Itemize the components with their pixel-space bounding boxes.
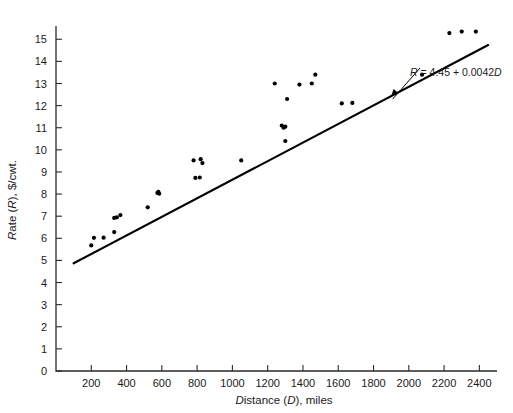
data-point <box>191 158 195 162</box>
data-point <box>157 192 161 196</box>
data-point <box>193 176 197 180</box>
data-point <box>285 97 289 101</box>
y-tick-label: 14 <box>35 55 47 67</box>
data-point <box>273 81 277 85</box>
y-tick-label: 10 <box>35 144 47 156</box>
y-tick-label: 8 <box>41 188 47 200</box>
x-tick-label: 1600 <box>326 377 350 389</box>
y-tick-label: 0 <box>41 365 47 377</box>
x-tick-label: 1000 <box>220 377 244 389</box>
data-point <box>89 243 93 247</box>
data-point <box>118 213 122 217</box>
y-tick-label: 3 <box>41 299 47 311</box>
data-point <box>198 175 202 179</box>
data-point <box>460 29 464 33</box>
data-point <box>310 81 314 85</box>
chart-canvas: 0123456789101112131415 20040060080010001… <box>0 0 513 413</box>
data-point <box>447 31 451 35</box>
data-point <box>146 205 150 209</box>
data-points <box>89 29 478 247</box>
y-tick-label: 5 <box>41 254 47 266</box>
y-tick-label: 11 <box>36 122 47 134</box>
scatter-chart: 0123456789101112131415 20040060080010001… <box>0 0 513 413</box>
y-tick-label: 6 <box>41 232 47 244</box>
y-axis-tick-marks <box>56 39 62 371</box>
x-tick-label: 600 <box>153 377 171 389</box>
y-tick-label: 7 <box>41 210 47 222</box>
x-tick-label: 1800 <box>361 377 385 389</box>
y-tick-label: 9 <box>41 166 47 178</box>
data-point <box>474 29 478 33</box>
x-axis-tick-marks <box>91 365 479 371</box>
y-tick-label: 2 <box>41 321 47 333</box>
y-tick-label: 15 <box>35 33 47 45</box>
data-point <box>283 125 287 129</box>
x-tick-label: 1200 <box>255 377 279 389</box>
data-point <box>112 230 116 234</box>
x-tick-label: 2400 <box>467 377 491 389</box>
x-tick-label: 2200 <box>432 377 456 389</box>
y-tick-label: 13 <box>35 78 47 90</box>
x-tick-label: 2000 <box>397 377 421 389</box>
data-point <box>297 83 301 87</box>
y-tick-label: 1 <box>41 343 47 355</box>
x-tick-label: 400 <box>117 377 135 389</box>
data-point <box>239 158 243 162</box>
x-tick-label: 800 <box>188 377 206 389</box>
x-axis-tick-labels: 2004006008001000120014001600180020002200… <box>82 377 492 389</box>
data-point <box>92 236 96 240</box>
x-axis-title: Distance (D), miles <box>235 394 332 406</box>
data-point <box>313 73 317 77</box>
regression-equation-label: R = 4.45 + 0.0042D <box>410 66 502 78</box>
x-tick-label: 1400 <box>291 377 315 389</box>
y-axis-title: Rate (R), $/cwt. <box>6 160 18 240</box>
data-point <box>102 236 106 240</box>
y-tick-label: 4 <box>41 277 47 289</box>
data-point <box>350 101 354 105</box>
data-point <box>199 157 203 161</box>
data-point <box>340 101 344 105</box>
data-point <box>283 139 287 143</box>
data-point <box>200 161 204 165</box>
data-point <box>115 215 119 219</box>
y-axis-tick-labels: 0123456789101112131415 <box>35 33 47 377</box>
y-tick-label: 12 <box>35 100 47 112</box>
x-tick-label: 200 <box>82 377 100 389</box>
